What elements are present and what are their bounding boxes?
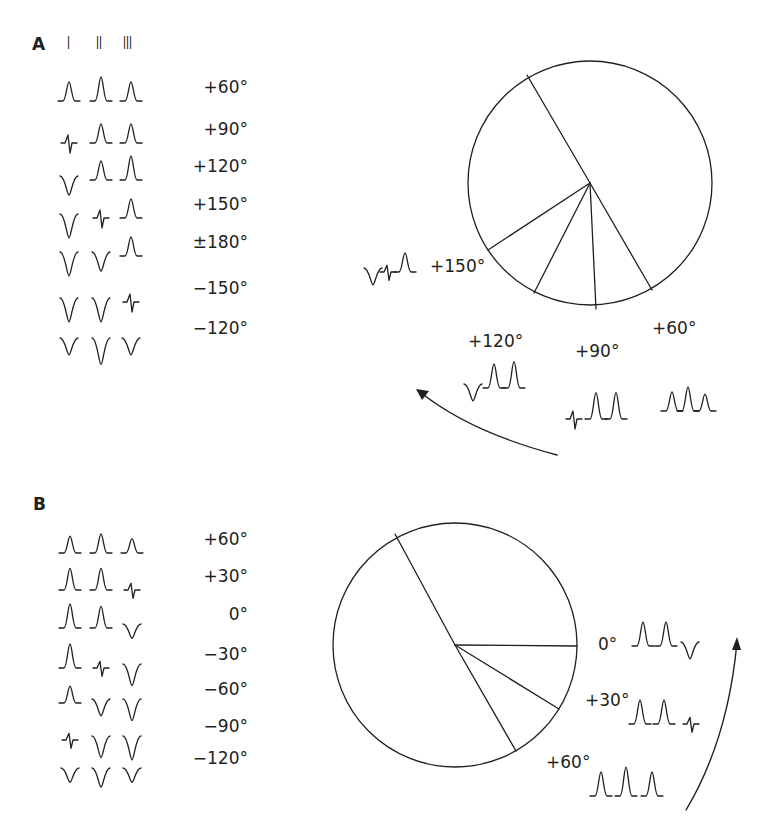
ecg-complex-lead-2 <box>92 768 110 787</box>
axis-label: −60° <box>186 681 248 698</box>
ecg-complex-lead-3 <box>123 294 139 312</box>
annotation-ecg-complex <box>641 772 663 796</box>
lead-header-iii: III <box>123 35 132 52</box>
axis-spoke <box>590 183 652 290</box>
panel-b-letter: B <box>33 496 46 513</box>
axis-label: −30° <box>186 646 248 663</box>
ecg-complex-lead-1 <box>59 536 81 553</box>
ecg-complex-lead-1 <box>59 604 81 628</box>
ecg-complex-lead-3 <box>120 124 142 143</box>
axis-spoke <box>488 183 590 250</box>
annotation-ecg-complex <box>605 393 627 419</box>
axis-label: +30° <box>186 568 248 585</box>
ecg-complex-lead-1 <box>60 176 78 195</box>
annotation-ecg-complex <box>615 767 637 796</box>
annotation-ecg-complex <box>661 392 683 411</box>
circle-axis-label: +90° <box>575 343 619 360</box>
ecg-complex-lead-3 <box>122 338 140 355</box>
axis-spoke <box>590 183 596 309</box>
ecg-complex-lead-1 <box>59 568 81 590</box>
circle-axis-label: +150° <box>430 258 485 275</box>
annotation-ecg-complex <box>483 364 505 388</box>
circle-axis-label: +60° <box>652 320 696 337</box>
axis-label: +90° <box>186 121 248 138</box>
ecg-complex-lead-1 <box>61 768 79 782</box>
ecg-complex-lead-3 <box>124 583 140 598</box>
lead-header-ii: II <box>96 35 102 52</box>
annotation-ecg-complex <box>503 362 525 388</box>
ecg-complex-lead-3 <box>123 768 141 782</box>
ecg-complex-lead-3 <box>123 664 141 686</box>
axis-label: −120° <box>186 750 248 767</box>
axis-label: +150° <box>186 196 248 213</box>
axis-label: −150° <box>186 280 248 297</box>
circle-axis-label: +30° <box>585 692 629 709</box>
arrow-head-icon <box>732 637 741 650</box>
ecg-complex-lead-2 <box>90 77 112 101</box>
axis-label: +60° <box>186 531 248 548</box>
annotation-ecg-complex <box>655 622 677 646</box>
ecg-complex-lead-2 <box>92 298 110 322</box>
ecg-complex-lead-1 <box>60 214 78 238</box>
axis-label: +60° <box>186 79 248 96</box>
axis-spoke <box>395 534 455 645</box>
annotation-ecg-complex <box>394 253 416 272</box>
ecg-complex-lead-3 <box>123 699 141 721</box>
ecg-complex-lead-2 <box>90 161 112 180</box>
annotation-ecg-complex <box>464 384 482 401</box>
axis-label: +120° <box>186 158 248 175</box>
axis-spoke <box>455 645 577 646</box>
ecg-complex-lead-2 <box>90 124 112 143</box>
ecg-complex-lead-3 <box>120 82 142 101</box>
axis-spoke <box>534 183 590 293</box>
ecg-complex-lead-2 <box>92 736 110 758</box>
circle-axis-label: 0° <box>598 636 617 653</box>
ecg-complex-lead-2 <box>92 338 110 364</box>
annotation-ecg-complex <box>566 411 582 429</box>
arrow-head-icon <box>416 389 429 400</box>
annotation-ecg-complex <box>629 700 651 724</box>
ecg-complex-lead-2 <box>90 534 112 553</box>
lead-header-i: I <box>67 35 70 52</box>
panel-b-graphics <box>59 523 741 810</box>
panel-a-letter: A <box>32 36 45 53</box>
ecg-complex-lead-3 <box>123 736 141 760</box>
axis-spoke <box>455 645 516 751</box>
annotation-ecg-complex <box>694 394 716 411</box>
annotation-ecg-complex <box>683 717 699 732</box>
ecg-complex-lead-2 <box>92 252 110 271</box>
axis-label: −120° <box>186 320 248 337</box>
ecg-complex-lead-2 <box>92 699 110 716</box>
ecg-complex-lead-3 <box>123 624 141 638</box>
axis-label: −90° <box>186 718 248 735</box>
rotation-arrow <box>420 392 557 455</box>
ecg-complex-lead-1 <box>59 686 81 703</box>
annotation-ecg-complex <box>632 622 654 646</box>
ecg-complex-lead-1 <box>58 82 80 101</box>
axis-spoke <box>527 75 590 183</box>
ecg-complex-lead-2 <box>90 568 112 590</box>
axis-spoke <box>455 645 559 709</box>
ecg-complex-lead-3 <box>120 237 142 256</box>
circle-axis-label: +120° <box>468 333 523 350</box>
ecg-complex-lead-2 <box>90 606 112 628</box>
axis-diagram-canvas <box>0 0 759 832</box>
annotation-ecg-complex <box>677 387 699 411</box>
annotation-ecg-complex <box>590 772 612 796</box>
annotation-ecg-complex <box>585 393 607 419</box>
ecg-complex-lead-2 <box>93 661 109 676</box>
ecg-complex-lead-1 <box>62 733 78 748</box>
ecg-complex-lead-1 <box>60 298 78 322</box>
annotation-ecg-complex <box>364 268 382 285</box>
ecg-complex-lead-2 <box>93 210 109 228</box>
ecg-complex-lead-1 <box>59 644 81 668</box>
ecg-complex-lead-3 <box>120 156 142 180</box>
ecg-complex-lead-1 <box>60 338 78 355</box>
ecg-complex-lead-1 <box>61 135 77 153</box>
circle-axis-label: +60° <box>546 754 590 771</box>
axis-label: 0° <box>186 606 248 623</box>
panel-a-graphics <box>58 61 716 455</box>
axis-label: ±180° <box>186 234 248 251</box>
ecg-complex-lead-3 <box>120 199 142 218</box>
annotation-ecg-complex <box>681 642 699 659</box>
